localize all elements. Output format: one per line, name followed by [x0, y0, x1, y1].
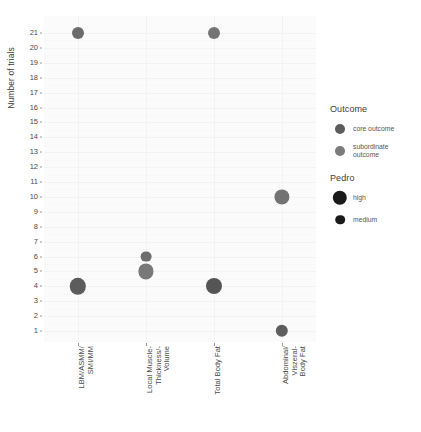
- gridline-horizontal-minor: [44, 294, 316, 295]
- y-axis-tick-mark: [40, 196, 43, 197]
- gridline-horizontal: [44, 48, 316, 49]
- legend-swatch: [330, 211, 350, 228]
- gridline-horizontal-minor: [44, 309, 316, 310]
- gridline-horizontal-minor: [44, 219, 316, 220]
- y-axis-tick-mark: [40, 241, 43, 242]
- y-axis-tick-label: 2: [34, 312, 38, 320]
- gridline-vertical: [282, 16, 283, 342]
- y-axis-tick-label: 19: [30, 59, 38, 67]
- gridline-horizontal: [44, 93, 316, 94]
- legend-swatch: [330, 142, 350, 159]
- gridline-horizontal: [44, 212, 316, 213]
- legend-item-label: medium: [350, 216, 377, 224]
- y-axis-tick-mark: [40, 167, 43, 168]
- gridline-horizontal: [44, 137, 316, 138]
- legend-dot-icon: [333, 190, 347, 204]
- legend-item-label: high: [350, 194, 366, 202]
- legend-item-label: subordinate outcome: [350, 143, 389, 159]
- gridline-horizontal: [44, 182, 316, 183]
- gridline-horizontal-minor: [44, 130, 316, 131]
- y-axis-tick-label: 13: [30, 148, 38, 156]
- y-axis-tick-label: 18: [30, 74, 38, 82]
- legend-group-title: Outcome: [330, 104, 418, 114]
- legend-item[interactable]: high: [330, 189, 418, 206]
- y-axis-tick-label: 6: [34, 253, 38, 261]
- gridline-horizontal: [44, 108, 316, 109]
- data-point[interactable]: [141, 251, 152, 262]
- gridline-vertical: [146, 16, 147, 342]
- y-axis-tick-label: 9: [34, 208, 38, 216]
- y-axis-tick-mark: [40, 226, 43, 227]
- y-axis-tick-mark: [40, 301, 43, 302]
- gridline-horizontal: [44, 78, 316, 79]
- gridline-horizontal: [44, 33, 316, 34]
- data-point[interactable]: [276, 325, 288, 337]
- legend-item[interactable]: medium: [330, 211, 418, 228]
- y-axis-tick-mark: [40, 77, 43, 78]
- scatter-plot-figure: Number of trials 12345678910111213141516…: [0, 0, 421, 432]
- gridline-horizontal: [44, 257, 316, 258]
- gridline-horizontal: [44, 63, 316, 64]
- legend-item[interactable]: subordinate outcome: [330, 142, 418, 159]
- gridline-horizontal: [44, 152, 316, 153]
- y-axis-tick-label: 21: [30, 29, 38, 37]
- data-point[interactable]: [274, 189, 289, 204]
- gridline-horizontal-minor: [44, 189, 316, 190]
- gridline-horizontal: [44, 227, 316, 228]
- y-axis-tick-mark: [40, 107, 43, 108]
- y-axis-tick-mark: [40, 286, 43, 287]
- gridline-horizontal: [44, 301, 316, 302]
- data-point[interactable]: [72, 27, 84, 39]
- y-axis-tick-label: 5: [34, 267, 38, 275]
- legend-group: Outcomecore outcomesubordinate outcome: [330, 104, 418, 159]
- y-axis-tick-label: 4: [34, 282, 38, 290]
- gridline-horizontal-minor: [44, 115, 316, 116]
- gridline-horizontal: [44, 167, 316, 168]
- y-axis-tick-mark: [40, 47, 43, 48]
- y-axis-tick-label: 11: [30, 178, 38, 186]
- y-axis-tick-label: 3: [34, 297, 38, 305]
- y-axis-tick-mark: [40, 331, 43, 332]
- y-axis-tick-label: 1: [34, 327, 38, 335]
- gridline-horizontal-minor: [44, 264, 316, 265]
- y-axis-tick-mark: [40, 92, 43, 93]
- legend: Outcomecore outcomesubordinate outcomePe…: [330, 104, 418, 242]
- gridline-horizontal: [44, 122, 316, 123]
- gridline-horizontal-minor: [44, 145, 316, 146]
- y-axis-tick-label: 15: [30, 118, 38, 126]
- y-axis-tick-mark: [40, 211, 43, 212]
- legend-group: Pedrohighmedium: [330, 173, 418, 228]
- data-point[interactable]: [208, 27, 220, 39]
- y-axis-tick-mark: [40, 256, 43, 257]
- x-axis-tick-labels: LBM/ASMM/ SMI/MMLocal Muscle- Thickness/…: [44, 346, 316, 430]
- legend-group-title: Pedro: [330, 173, 418, 183]
- legend-item-label: core outcome: [350, 125, 394, 133]
- x-axis-tick-label-wrap: Abdominal/ Viszeral- Body Fat: [198, 346, 282, 360]
- y-axis-tick-mark: [40, 122, 43, 123]
- data-point[interactable]: [70, 278, 86, 294]
- y-axis-tick-label: 14: [30, 133, 38, 141]
- gridline-horizontal-minor: [44, 234, 316, 235]
- y-axis-tick-label: 17: [30, 89, 38, 97]
- gridline-horizontal-minor: [44, 85, 316, 86]
- y-axis-tick-labels: 123456789101112131415161718192021: [22, 26, 42, 338]
- y-axis-tick-mark: [40, 271, 43, 272]
- gridline-horizontal: [44, 242, 316, 243]
- y-axis-tick-label: 16: [30, 104, 38, 112]
- legend-dot-icon: [335, 146, 345, 156]
- gridline-horizontal-minor: [44, 100, 316, 101]
- y-axis-tick-mark: [40, 137, 43, 138]
- y-axis-tick-mark: [40, 62, 43, 63]
- data-point[interactable]: [138, 264, 153, 279]
- gridline-horizontal-minor: [44, 160, 316, 161]
- y-axis-tick-label: 12: [30, 163, 38, 171]
- gridline-horizontal-minor: [44, 249, 316, 250]
- legend-dot-icon: [335, 215, 345, 225]
- data-point[interactable]: [206, 278, 222, 294]
- legend-dot-icon: [335, 124, 345, 134]
- legend-swatch: [330, 120, 350, 137]
- legend-item[interactable]: core outcome: [330, 120, 418, 137]
- y-axis-tick-label: 7: [34, 238, 38, 246]
- x-axis-tick-label: Abdominal/ Viszeral- Body Fat: [282, 346, 308, 430]
- gridline-horizontal: [44, 271, 316, 272]
